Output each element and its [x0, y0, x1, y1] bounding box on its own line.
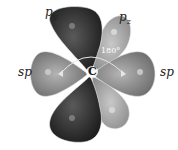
py-label: py: [45, 5, 57, 21]
angle-label: 180°: [101, 46, 120, 55]
sp-label-left: sp: [18, 65, 32, 79]
sp-label-right: sp: [160, 65, 174, 79]
carbon-label: C: [88, 65, 97, 78]
pz-label: pz: [119, 10, 131, 26]
